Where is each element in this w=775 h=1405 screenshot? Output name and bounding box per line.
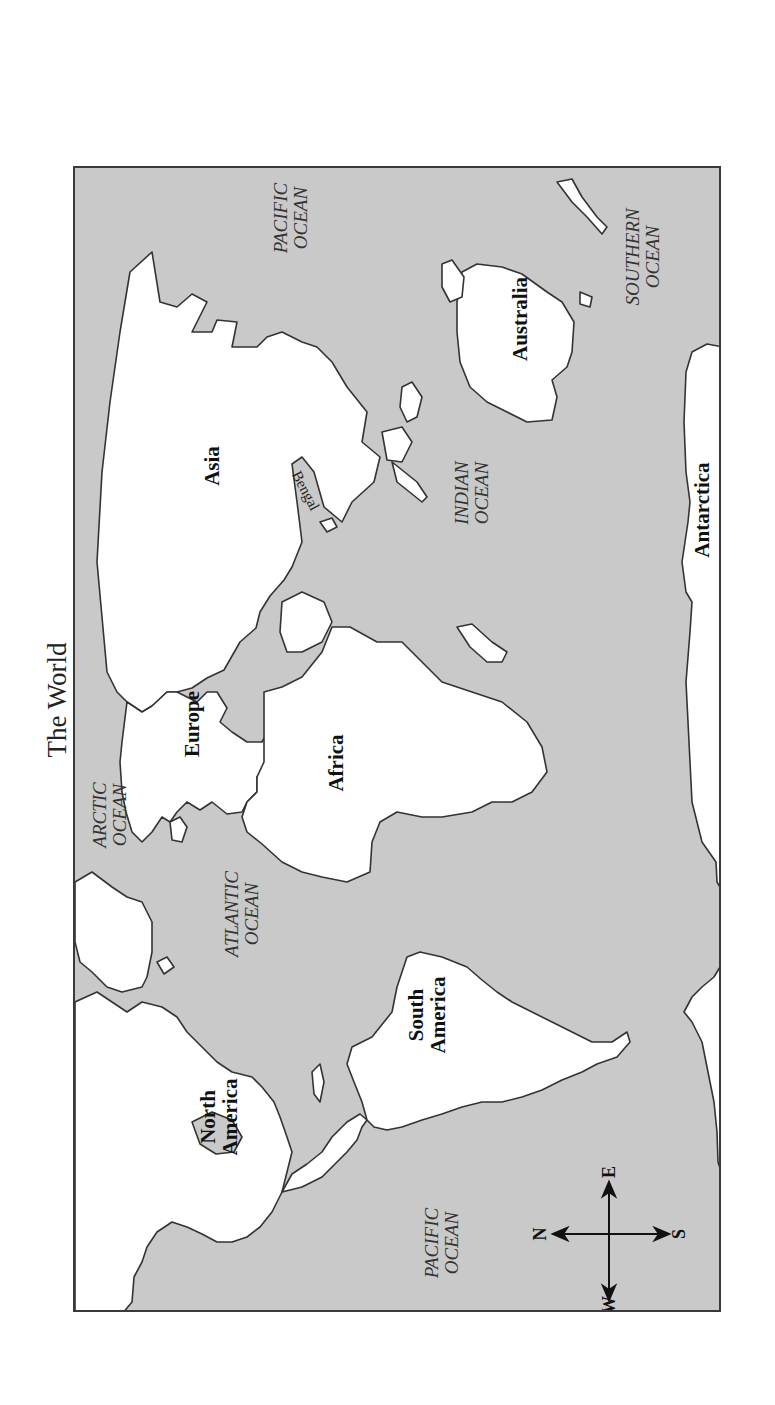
new-guinea-shape	[442, 260, 464, 302]
world-map: Asia Bengal Europe Africa Australia Anta…	[73, 166, 721, 1312]
compass-west-label: W	[599, 1296, 620, 1312]
south-america-shape	[347, 952, 630, 1130]
label-australia: Australia	[509, 277, 531, 361]
cuba-shape	[312, 1064, 324, 1102]
label-pacific-ocean-west: PACIFIC OCEAN	[422, 1208, 462, 1278]
label-antarctica: Antarctica	[691, 462, 713, 557]
new-zealand-shape	[557, 179, 607, 234]
britain-shape	[170, 817, 187, 842]
sumatra-shape	[392, 462, 427, 502]
compass-east-label: E	[599, 1166, 620, 1178]
north-america-shape	[75, 992, 292, 1312]
arabia-shape	[280, 592, 332, 652]
compass-rose	[545, 1168, 705, 1312]
antarctica-peninsula-shape	[684, 962, 721, 1177]
sri-lanka-shape	[320, 518, 337, 532]
japan-shape	[400, 382, 422, 422]
central-america-shape	[282, 1114, 367, 1192]
label-south-america: South America	[405, 977, 449, 1054]
compass-south-label: S	[669, 1229, 690, 1239]
greenland-shape	[75, 872, 152, 992]
label-atlantic-ocean: ATLANTIC OCEAN	[222, 871, 262, 957]
label-southern-ocean: SOUTHERN OCEAN	[623, 208, 663, 305]
map-shapes	[75, 168, 721, 1312]
africa-shape	[242, 627, 547, 882]
label-africa: Africa	[325, 734, 347, 791]
tasmania-shape	[580, 292, 592, 307]
compass-north-label: N	[530, 1228, 551, 1241]
label-arctic-ocean: ARCTIC OCEAN	[90, 782, 130, 847]
label-asia: Asia	[201, 446, 223, 486]
label-europe: Europe	[181, 691, 203, 757]
page-title: The World	[42, 642, 73, 757]
label-north-america: North America	[197, 1079, 241, 1156]
antarctica-shape	[682, 344, 721, 892]
madagascar-shape	[457, 624, 507, 662]
borneo-shape	[382, 427, 412, 462]
label-indian-ocean: INDIAN OCEAN	[452, 461, 492, 524]
iceland-shape	[157, 957, 174, 974]
label-pacific-ocean-east: PACIFIC OCEAN	[271, 183, 311, 253]
